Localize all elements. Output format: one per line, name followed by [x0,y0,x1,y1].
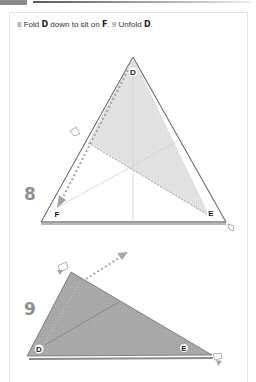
label-d9: D [36,345,42,354]
label-f: F [55,210,60,219]
label-e: E [208,209,214,218]
fold-marker-9-right-icon [213,353,222,360]
unfold-arrow-path [86,256,122,279]
step-9-figure-number: 9 [24,299,36,319]
label-d: D [130,68,136,77]
fold-marker-9-top-fill-icon [57,270,63,275]
fold-marker-9-right-fill-icon [216,360,222,366]
fold-marker-right-icon [228,224,234,231]
fold-marker-left-icon [70,127,80,136]
label-e9: E [181,344,187,353]
paper-shadow-9 [29,358,213,359]
step-8-figure-number: 8 [24,184,36,204]
unfold-arrow-head-icon [117,252,128,260]
